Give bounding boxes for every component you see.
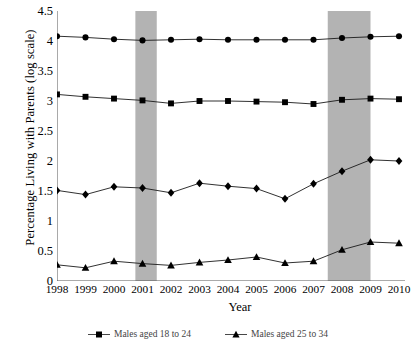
data-point-square [282,99,288,105]
legend-item: Males aged 25 to 34 [225,329,328,339]
data-point-diamond [282,195,289,203]
data-point-circle [57,33,60,39]
x-axis-tick-label: 2005 [245,283,268,295]
chart-svg [57,11,405,281]
data-point-circle [339,35,345,41]
data-point-square [111,96,117,102]
data-point-triangle [57,261,61,268]
data-point-circle [310,37,316,43]
data-point-square [168,100,174,106]
data-point-diamond [396,157,403,165]
y-axis-tick-label: 2 [47,155,53,168]
data-point-circle [111,36,117,42]
y-axis-tick-label: 3.5 [37,65,53,78]
legend-item: Males aged 18 to 24 [88,329,191,339]
x-axis-tick-labels: 1998199920002001200220032004200520062007… [57,283,405,299]
legend-marker-triangle [225,330,247,339]
data-point-circle [225,37,231,43]
legend-marker-square [88,330,110,339]
y-axis-tick-labels: 00.511.522.533.544.5 [0,11,53,281]
y-axis-tick-label: 1.5 [37,185,53,198]
chart-container: Percentage Living with Parents (log scal… [0,0,416,339]
data-point-circle [139,37,145,43]
plot-area [57,11,405,281]
data-point-triangle [253,253,261,260]
chart-legend: Males aged 18 to 24Males aged 25 to 34 [0,329,416,339]
data-point-diamond [168,189,175,197]
x-axis-tick-label: 2001 [131,283,154,295]
data-point-circle [196,36,202,42]
data-point-square [83,94,89,100]
x-axis-tick-label: 2003 [188,283,211,295]
legend-label: Males aged 18 to 24 [114,329,191,339]
data-point-diamond [57,186,60,194]
data-point-circle [253,37,259,43]
legend-label: Males aged 25 to 34 [251,329,328,339]
data-point-circle [282,37,288,43]
data-point-square [311,101,317,107]
recession-band [328,11,371,281]
data-point-circle [367,34,373,40]
x-axis-tick-label: 1999 [74,283,97,295]
x-axis-tick-label: 2009 [359,283,382,295]
data-point-square [368,96,374,102]
x-axis-label: Year [0,300,416,315]
y-axis-tick-label: 1 [47,215,53,228]
data-point-circle [168,37,174,43]
data-point-diamond [310,180,317,188]
data-point-square [225,98,231,104]
data-point-square [254,99,260,105]
y-axis-tick-label: 4 [47,35,53,48]
x-axis-tick-label: 2007 [302,283,325,295]
x-axis-tick-label: 2004 [217,283,240,295]
data-point-diamond [82,191,89,199]
x-axis-tick-label: 1998 [46,283,69,295]
data-point-square [140,97,146,103]
data-point-triangle [110,257,118,264]
data-point-triangle [310,257,318,264]
recession-band [135,11,156,281]
data-point-circle [396,33,402,39]
x-axis-tick-label: 2002 [160,283,183,295]
y-axis-tick-label: 2.5 [37,125,53,138]
y-axis-tick-label: 0.5 [37,245,53,258]
x-axis-tick-label: 2000 [103,283,126,295]
data-point-square [339,97,345,103]
x-axis-tick-label: 2008 [331,283,354,295]
y-axis-tick-label: 3 [47,95,53,108]
data-point-diamond [196,179,203,187]
x-axis-tick-label: 2010 [388,283,411,295]
x-axis-tick-label: 2006 [274,283,297,295]
y-axis-tick-label: 4.5 [37,5,53,18]
data-point-square [57,91,60,97]
data-point-diamond [253,185,260,193]
data-point-diamond [111,183,118,191]
data-point-square [197,98,203,104]
x-axis-label-text: Year [228,300,251,314]
data-point-square [396,96,402,102]
data-point-circle [82,34,88,40]
data-point-diamond [225,182,232,190]
